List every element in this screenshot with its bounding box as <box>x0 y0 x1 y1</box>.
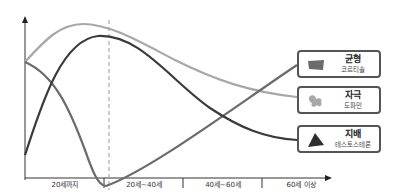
legend-balance: 균형 코르티솔 <box>297 50 381 78</box>
legend-subtitle: 코르티솔 <box>329 66 377 75</box>
line-balance-cortisol <box>25 62 297 186</box>
legend-dominance: 지배 테스토스테론 <box>297 125 381 153</box>
x-label-0: 20세까지 <box>26 180 104 190</box>
legend-title: 균형 <box>329 54 377 65</box>
splash-icon <box>307 93 325 109</box>
x-label-1: 20세~40세 <box>105 180 183 190</box>
legend-title: 지배 <box>329 129 377 140</box>
legend-subtitle: 도파민 <box>329 102 377 111</box>
arrowhead-icon <box>307 132 325 148</box>
y-axis-arrow-icon <box>22 16 28 23</box>
x-label-2: 40세~60세 <box>184 180 262 190</box>
x-label-3: 60세 이상 <box>262 180 340 190</box>
line-stimulus-dopamine <box>25 24 297 97</box>
legend-stimulus: 자극 도파민 <box>297 86 381 114</box>
legend-title: 자극 <box>329 90 377 101</box>
legend-subtitle: 테스토스테론 <box>329 141 377 150</box>
flag-icon <box>307 57 325 73</box>
